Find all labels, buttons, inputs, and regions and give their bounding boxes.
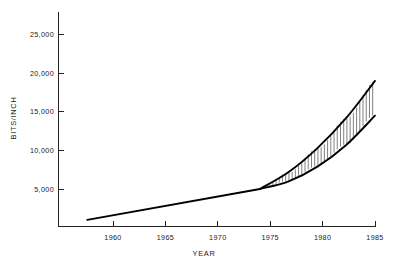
x-tick-label-1985: 1985: [366, 233, 383, 242]
x-tick-label-1970: 1970: [209, 233, 226, 242]
x-tick-label-1975: 1975: [262, 233, 279, 242]
series-line-historical: [87, 189, 260, 220]
y-axis-title: BITS/INCH: [9, 97, 18, 140]
x-tick-label-1965: 1965: [157, 233, 174, 242]
x-tick-label-1980: 1980: [314, 233, 331, 242]
y-tick-label-20000: 20,000: [30, 69, 54, 78]
series-line-lower-bound: [260, 116, 375, 189]
y-tick-label-10000: 10,000: [30, 146, 54, 155]
y-tick-label-15000: 15,000: [30, 107, 54, 116]
bits-per-inch-chart: 5,000 10,000 15,000 20,000 25,000 1960 1…: [0, 0, 407, 267]
x-axis-ticks: 1960 1965 1970 1975 1980 1985: [104, 221, 383, 242]
y-tick-label-5000: 5,000: [34, 185, 54, 194]
x-tick-label-1960: 1960: [104, 233, 121, 242]
chart-page: 5,000 10,000 15,000 20,000 25,000 1960 1…: [0, 0, 407, 267]
x-axis-title: YEAR: [193, 249, 216, 258]
y-tick-label-25000: 25,000: [30, 30, 54, 39]
